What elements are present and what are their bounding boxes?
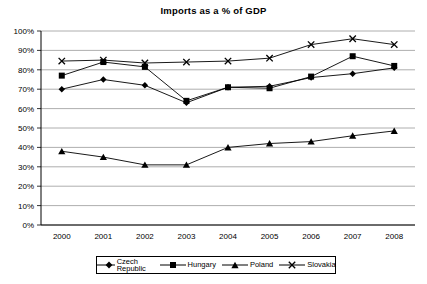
y-tick-label: 90%: [18, 46, 34, 55]
legend-label: Hungary: [188, 261, 216, 269]
series-slovakia: [59, 36, 398, 67]
y-tick-label: 70%: [18, 85, 34, 94]
y-axis-tick-labels: 0%10%20%30%40%50%60%70%80%90%100%: [14, 27, 34, 230]
y-tick-label: 40%: [18, 143, 34, 152]
data-point-diamond: [349, 70, 355, 76]
plot-area: 0%10%20%30%40%50%60%70%80%90%100% 200020…: [0, 0, 427, 284]
legend-item-czech-republic: Czech Republic: [96, 258, 153, 273]
y-tick-label: 10%: [18, 202, 34, 211]
y-tick-label: 60%: [18, 105, 34, 114]
data-point-square: [308, 74, 314, 80]
data-point-diamond: [142, 82, 148, 88]
x-tick-label: 2002: [136, 232, 154, 241]
data-point-square: [350, 53, 356, 59]
legend-marker-diamond-icon: [96, 260, 114, 270]
legend-marker-square-icon: [160, 260, 186, 270]
x-tick-label: 2008: [385, 232, 403, 241]
legend-item-poland: Poland: [222, 260, 273, 270]
legend-label: Poland: [250, 261, 273, 269]
data-point-square: [183, 98, 189, 104]
legend-item-hungary: Hungary: [160, 260, 216, 270]
data-point-square: [391, 63, 397, 69]
chart-container: Imports as a % of GDP 0%10%20%30%40%50%6…: [0, 0, 427, 284]
legend-label: Slovakia: [307, 261, 335, 269]
x-tick-label: 2006: [302, 232, 320, 241]
legend-item-slovakia: Slovakia: [279, 260, 335, 270]
data-point-triangle: [391, 128, 398, 134]
y-tick-label: 100%: [14, 27, 34, 36]
y-tick-label: 30%: [18, 163, 34, 172]
data-point-square: [59, 73, 65, 79]
y-tick-label: 50%: [18, 124, 34, 133]
x-tick-label: 2005: [261, 232, 279, 241]
y-tick-label: 20%: [18, 182, 34, 191]
x-tick-label: 2003: [178, 232, 196, 241]
legend-marker-triangle-icon: [222, 260, 248, 270]
x-axis-tick-labels: 200020012002200320042005200620072008: [53, 232, 404, 241]
x-tick-label: 2007: [344, 232, 362, 241]
x-tick-label: 2001: [94, 232, 112, 241]
data-point-square: [267, 85, 273, 91]
y-tick-label: 0%: [22, 221, 34, 230]
chart-legend: Czech Republic Hungary Poland Slovakia: [96, 256, 336, 274]
legend-label: Czech Republic: [117, 258, 154, 273]
legend-marker-cross-icon: [279, 260, 305, 270]
data-point-triangle: [58, 148, 65, 154]
series-line: [62, 56, 394, 101]
y-tick-label: 80%: [18, 66, 34, 75]
x-tick-label: 2000: [53, 232, 71, 241]
data-point-diamond: [59, 86, 65, 92]
data-point-diamond: [100, 76, 106, 82]
data-series-layer: [58, 36, 398, 168]
x-tick-label: 2004: [219, 232, 237, 241]
series-line: [62, 39, 394, 63]
data-point-square: [225, 84, 231, 90]
